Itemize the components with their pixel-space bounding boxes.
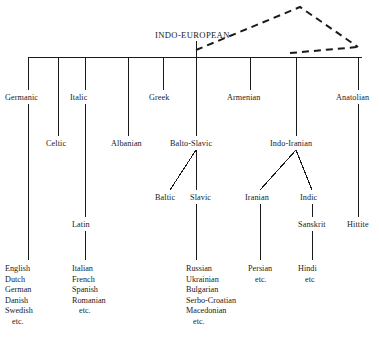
indic-languages-list: Hindi etc [298,264,317,285]
fork-balto-slavic-to-baltic [170,150,196,190]
list-item: Italian [72,264,106,275]
fork-indo-iranian-to-iranian [260,150,296,190]
italic-languages-list: Italian French Spanish Romanian etc. [72,264,106,317]
node-celtic: Celtic [46,139,66,149]
list-item-etc: etc. [186,317,236,328]
list-item: Serbo-Croatian [186,296,236,307]
list-item: Spanish [72,285,106,296]
node-sanskrit: Sanskrit [298,220,326,230]
node-baltic: Baltic [155,193,175,203]
node-germanic: Germanic [5,93,38,103]
fork-indo-iranian-to-indic [296,150,312,190]
list-item: Swedish [5,306,33,317]
node-italic: Italic [70,93,87,103]
node-albanian: Albanian [111,139,142,149]
list-item-etc: etc. [5,317,33,328]
list-item: French [72,275,106,286]
list-item: Bulgarian [186,285,236,296]
slavic-languages-list: Russian Ukrainian Bulgarian Serbo-Croati… [186,264,236,328]
list-item: Macedonian [186,306,236,317]
list-item: Danish [5,296,33,307]
node-latin: Latin [72,220,90,230]
list-item-etc: etc. [72,306,106,317]
language-family-tree-diagram: INDO-EUROPEAN Germanic Italic Greek Arme… [0,0,379,345]
list-item: Hindi [298,264,317,275]
node-hittite: Hittite [347,220,369,230]
list-item: English [5,264,33,275]
list-item: Persian [248,264,272,275]
list-item: Ukrainian [186,275,236,286]
node-greek: Greek [149,93,170,103]
node-indo-iranian: Indo-Iranian [270,139,312,149]
node-balto-slavic: Balto-Slavic [170,139,212,149]
list-item: Dutch [5,275,33,286]
iranian-languages-list: Persian etc. [248,264,272,285]
node-iranian: Iranian [245,193,269,203]
node-slavic: Slavic [190,193,211,203]
node-armenian: Armenian [227,93,261,103]
list-item: German [5,285,33,296]
dashed-overlay-baseline [290,47,358,53]
node-indo-european: INDO-EUROPEAN [155,30,230,40]
node-indic: Indic [300,193,317,203]
list-item-etc: etc. [248,275,272,286]
list-item: Russian [186,264,236,275]
list-item-etc: etc [298,275,317,286]
dashed-overlay-line [196,7,358,50]
germanic-languages-list: English Dutch German Danish Swedish etc. [5,264,33,328]
node-anatolian: Anatolian [336,93,369,103]
list-item: Romanian [72,296,106,307]
